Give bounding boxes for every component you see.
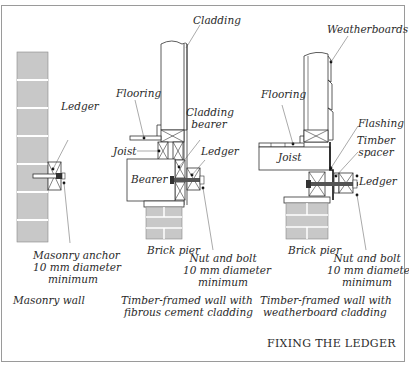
flooring-label: Flooring	[116, 87, 161, 99]
weatherboards-label: Weatherboards	[327, 23, 408, 35]
anchor-line-1: Masonry anchor	[33, 249, 113, 261]
cladding-label: Cladding	[193, 14, 241, 26]
fibrous-cement-panel	[127, 25, 213, 250]
timber-spacer-line-2: spacer	[356, 146, 396, 158]
cladding-bearer-line-2: bearer	[186, 118, 232, 130]
fibrous-cement-caption: Timber-framed wall with fibrous cement c…	[121, 294, 253, 318]
bolt-line-1: Nut and bolt	[327, 252, 407, 264]
ledger-label-2: Ledger	[201, 145, 239, 157]
bolt-line-3: minimum	[327, 276, 407, 288]
bolt-line-2: 10 mm diameter	[327, 264, 407, 276]
timber-spacer-label: Timber spacer	[356, 134, 396, 158]
weatherboard-caption: Timber-framed wall with weatherboard cla…	[260, 294, 392, 318]
cladding-bearer-line-1: Cladding	[186, 106, 232, 118]
caption-line-2: fibrous cement cladding	[121, 306, 253, 318]
caption-line-1: Timber-framed wall with	[121, 294, 253, 306]
flashing-label: Flashing	[358, 117, 404, 129]
joist-label: Joist	[113, 145, 137, 157]
caption-line-2: weatherboard cladding	[260, 306, 392, 318]
ledger-label: Ledger	[61, 100, 99, 112]
masonry-wall-panel	[17, 52, 70, 243]
caption-line-1: Timber-framed wall with	[260, 294, 392, 306]
masonry-wall-caption: Masonry wall	[13, 294, 85, 306]
flooring-label-3: Flooring	[261, 88, 306, 100]
joist-label-3: Joist	[278, 151, 302, 163]
anchor-line-3: minimum	[33, 273, 113, 285]
anchor-line-2: 10 mm diameter	[33, 261, 113, 273]
bolt-line-3: minimum	[183, 276, 263, 288]
bolt-line-1: Nut and bolt	[183, 252, 263, 264]
timber-spacer-line-1: Timber	[356, 134, 396, 146]
cladding-bearer-label: Cladding bearer	[186, 106, 232, 130]
bearer-label: Bearer	[131, 173, 167, 185]
bolt-line-2: 10 mm diameter	[183, 264, 263, 276]
weatherboard-panel	[259, 36, 366, 250]
nut-bolt-label: Nut and bolt 10 mm diameter minimum	[183, 252, 263, 288]
diagram-title: FIXING THE LEDGER	[267, 337, 396, 350]
masonry-anchor-label: Masonry anchor 10 mm diameter minimum	[33, 249, 113, 285]
ledger-label-3: Ledger	[359, 175, 397, 187]
nut-bolt-label-3: Nut and bolt 10 mm diameter minimum	[327, 252, 407, 288]
